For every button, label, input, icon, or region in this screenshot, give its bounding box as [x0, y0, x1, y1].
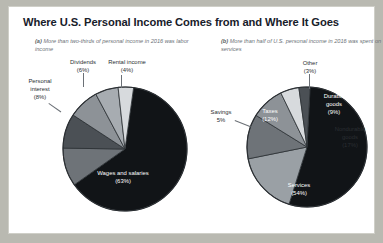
label-durable-pct: (9%) — [328, 109, 340, 115]
label-taxes-pct: (12%) — [262, 116, 278, 122]
label-interest-line1: Personal — [28, 78, 51, 84]
label-nondurable-line2: goods — [342, 134, 358, 140]
label-interest-pct: (8%) — [34, 94, 46, 100]
label-nondurable-goods: Nondurable goods (17%) — [321, 126, 379, 150]
label-proprietors-line2: income — [39, 163, 58, 169]
label-rental-income: Rental income (4%) — [98, 59, 156, 75]
label-proprietors-line1: Proprietors' — [33, 155, 63, 161]
label-durable-line2: goods — [326, 101, 342, 107]
label-transfer-pct: (10%) — [41, 140, 57, 146]
label-savings-name: Savings — [211, 109, 232, 115]
label-services-name: Services — [288, 182, 311, 188]
label-proprietors-income: Proprietors' income (9%) — [22, 155, 74, 179]
leader-interest — [48, 103, 61, 112]
panel-b-caption: (b) More than half of U.S. personal inco… — [221, 37, 383, 54]
label-personal-interest: Personal interest (8%) — [18, 78, 62, 102]
label-savings: Savings 5% — [202, 109, 240, 125]
leader-dividends — [83, 73, 84, 87]
label-taxes: Taxes (12%) — [253, 108, 287, 124]
label-savings-pct: 5% — [217, 117, 226, 123]
leader-other — [309, 74, 310, 89]
label-transfer-payments: Transfer payments (10%) — [25, 124, 73, 148]
label-services-pct: (54%) — [291, 190, 307, 196]
label-transfer-line1: Transfer — [38, 124, 60, 130]
pie-a-svg — [61, 85, 189, 213]
label-proprietors-pct: (9%) — [42, 171, 54, 177]
label-nondurable-line1: Nondurable — [335, 126, 365, 132]
label-rental-pct: (4%) — [121, 67, 133, 73]
label-other-pct: (3%) — [304, 68, 316, 74]
label-wages-and-salaries: Wages and salaries (63%) — [81, 170, 165, 186]
label-other: Other (3%) — [290, 60, 330, 76]
page-title: Where U.S. Personal Income Comes from an… — [23, 16, 339, 28]
panel-b-caption-text: More than half of U.S. personal income i… — [221, 38, 381, 52]
panel-a-caption-text: More than two-thirds of personal income … — [35, 38, 189, 52]
figure-card: Where U.S. Personal Income Comes from an… — [8, 6, 375, 234]
label-rental-name: Rental income — [108, 59, 146, 65]
label-dividends-name: Dividends — [70, 59, 96, 65]
label-durable-line1: Durable — [324, 93, 345, 99]
panel-a-caption-tag: (a) — [35, 38, 42, 44]
label-dividends-pct: (6%) — [77, 67, 89, 73]
label-wages-name: Wages and salaries — [97, 170, 149, 176]
label-services: Services (54%) — [276, 182, 322, 198]
label-other-name: Other — [303, 60, 318, 66]
label-interest-line2: interest — [30, 86, 49, 92]
pie-chart-a — [61, 85, 189, 213]
label-taxes-name: Taxes — [262, 108, 277, 114]
label-nondurable-pct: (17%) — [342, 142, 358, 148]
leader-rental — [121, 75, 122, 88]
label-durable-goods: Durable goods (9%) — [312, 93, 356, 117]
label-wages-pct: (63%) — [115, 178, 131, 184]
label-transfer-line2: payments — [36, 132, 62, 138]
panel-a-caption: (a) More than two-thirds of personal inc… — [35, 37, 205, 54]
